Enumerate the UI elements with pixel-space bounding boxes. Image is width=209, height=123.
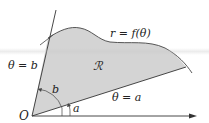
- origin-label: O: [19, 110, 29, 122]
- ray-a-label: θ = a: [112, 92, 141, 103]
- region-label: ℛ: [93, 60, 103, 72]
- polar-region-diagram: r = f(θ) ℛ θ = b θ = a b a O: [0, 0, 209, 123]
- curve-label: r = f(θ): [110, 28, 151, 39]
- arrowhead-icon: [189, 114, 197, 119]
- region-R: [32, 27, 186, 116]
- angle-b-label: b: [52, 84, 59, 95]
- scan-band: [0, 48, 209, 55]
- ray-b-label: θ = b: [8, 60, 38, 71]
- angle-a-label: a: [73, 103, 80, 114]
